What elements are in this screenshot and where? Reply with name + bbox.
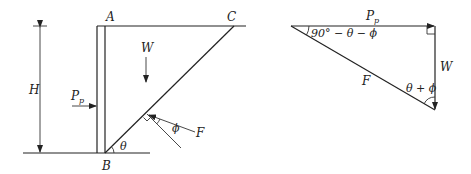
label-W: W — [440, 60, 454, 74]
label-phi: ϕ — [172, 122, 180, 135]
theta-arc — [112, 147, 115, 153]
apex-angle-arc — [307, 26, 310, 35]
retaining-wall-diagram: H A B C W Pp θ ϕ F — [23, 10, 246, 173]
label-F: F — [361, 74, 371, 88]
label-theta: θ — [120, 140, 127, 153]
label-B: B — [101, 159, 111, 173]
right-angle-marker — [144, 118, 151, 122]
weight-arrow: W — [141, 41, 155, 82]
label-C: C — [227, 10, 236, 24]
bottom-angle-arc — [424, 97, 435, 104]
label-Pp: Pp — [70, 89, 84, 105]
force-triangle: 90° − θ − ϕ θ + ϕ Pp W F — [291, 9, 454, 110]
label-F: F — [195, 126, 205, 140]
failure-plane-line — [105, 26, 234, 153]
label-H: H — [28, 83, 40, 97]
label-W: W — [141, 41, 155, 55]
label-A: A — [105, 10, 115, 24]
phi-arc — [157, 119, 161, 124]
passive-force-arrow: Pp — [70, 89, 96, 106]
reaction-force-arrow: ϕ F — [144, 114, 206, 148]
label-Pp: Pp — [365, 9, 379, 25]
diagram-canvas: H A B C W Pp θ ϕ F — [0, 0, 471, 174]
label-bottom-angle: θ + ϕ — [406, 82, 437, 95]
label-apex-angle: 90° − θ − ϕ — [311, 27, 378, 40]
right-angle-marker — [427, 26, 435, 34]
height-dimension: H — [28, 26, 47, 152]
